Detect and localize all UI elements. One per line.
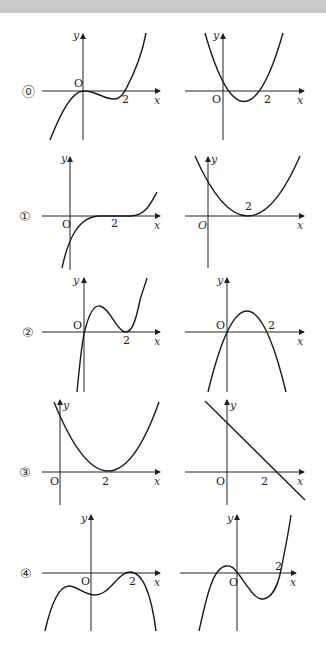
option-0-left-graph: O 2 x y <box>42 29 161 140</box>
origin-label: O <box>62 218 71 231</box>
x-label: x <box>154 475 161 488</box>
y-label: y <box>229 399 237 412</box>
origin-label: O <box>216 319 225 332</box>
option-3-left-graph: O 2 x y <box>42 399 161 505</box>
y-label: y <box>72 274 80 287</box>
tick-2-label: 2 <box>245 200 252 213</box>
y-label: y <box>210 153 218 166</box>
origin-label: O <box>198 219 207 232</box>
y-label: y <box>62 399 70 412</box>
option-3-right-graph: O 2 x y <box>185 399 305 505</box>
option-2-row: ② O 2 x y O 2 x y <box>22 274 304 392</box>
parabola-curve <box>54 402 159 471</box>
option-0-right-graph: O 2 x y <box>185 29 304 140</box>
option-4-row: ④ O 2 x y O 2 x y <box>20 512 297 631</box>
option-4-marker: ④ <box>20 566 32 581</box>
tick-2-label: 2 <box>261 475 268 488</box>
option-1-row: ① O 2 x y O 2 x y <box>19 152 304 270</box>
x-label: x <box>290 576 297 589</box>
option-0-marker: ⓪ <box>22 84 35 99</box>
y-label: y <box>216 274 224 287</box>
origin-label: O <box>50 475 59 488</box>
origin-label: O <box>216 475 225 488</box>
option-1-left-graph: O 2 x y <box>42 152 161 270</box>
cubic-curve <box>77 278 147 392</box>
x-label: x <box>297 335 304 348</box>
option-1-right-graph: O 2 x y <box>185 153 304 268</box>
cubic-curve <box>50 33 146 140</box>
cubic-curve <box>62 192 157 268</box>
option-2-right-graph: O 2 x y <box>185 274 304 392</box>
y-label: y <box>80 512 88 525</box>
x-label: x <box>154 94 161 107</box>
tick-2-label: 2 <box>268 319 275 332</box>
x-label: x <box>154 576 161 589</box>
tick-2-label: 2 <box>122 93 129 106</box>
x-label: x <box>154 219 161 232</box>
y-label: y <box>60 152 68 165</box>
option-4-right-graph: O 2 x y <box>180 512 297 631</box>
tick-2-label: 2 <box>275 560 282 573</box>
x-label: x <box>297 219 304 232</box>
origin-label: O <box>212 93 221 106</box>
y-label: y <box>72 29 80 42</box>
option-3-row: ③ O 2 x y O 2 x y <box>19 399 305 505</box>
x-label: x <box>297 475 304 488</box>
graph-options-figure: ⓪ O 2 x y O 2 x y ① O 2 <box>0 0 326 655</box>
tick-2-label: 2 <box>123 334 130 347</box>
x-label: x <box>154 335 161 348</box>
tick-2-label: 2 <box>264 93 271 106</box>
option-2-left-graph: O 2 x y <box>42 274 161 392</box>
origin-label: O <box>74 77 83 90</box>
origin-label: O <box>81 575 90 588</box>
origin-label: O <box>229 576 238 589</box>
option-4-left-graph: O 2 x y <box>42 512 161 631</box>
option-0-row: ⓪ O 2 x y O 2 x y <box>22 29 304 140</box>
quartic-curve <box>45 572 156 631</box>
option-1-marker: ① <box>19 209 31 224</box>
origin-label: O <box>73 319 82 332</box>
option-3-marker: ③ <box>19 465 31 480</box>
y-label: y <box>226 512 234 525</box>
y-label: y <box>212 29 220 42</box>
tick-2-label: 2 <box>129 575 136 588</box>
option-2-marker: ② <box>22 325 34 340</box>
tick-2-label: 2 <box>102 475 109 488</box>
tick-2-label: 2 <box>111 217 118 230</box>
x-label: x <box>297 94 304 107</box>
